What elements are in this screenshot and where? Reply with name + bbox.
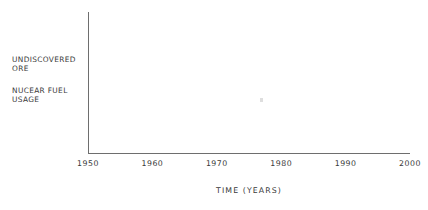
x-axis-tick-label-1980: 1980: [270, 159, 292, 168]
x-axis-tick-label-1970: 1970: [206, 159, 228, 168]
x-axis-tick-label-1950: 1950: [77, 159, 99, 168]
chart-figure: UNDISCOVERED ORE NUCEAR FUEL USAGE 19501…: [0, 0, 428, 210]
x-axis-title: TIME (YEARS): [88, 186, 410, 195]
x-axis-tick-label-1990: 1990: [335, 159, 357, 168]
x-axis-line: [88, 153, 410, 154]
plot-area: [89, 12, 410, 153]
series-label-undiscovered-ore: UNDISCOVERED ORE: [4, 55, 88, 74]
series-label-group: UNDISCOVERED ORE NUCEAR FUEL USAGE: [0, 0, 88, 154]
series-label-nuclear-fuel-usage: NUCEAR FUEL USAGE: [4, 86, 88, 105]
x-axis-tick-label-1960: 1960: [141, 159, 163, 168]
x-axis-tick-label-2000: 2000: [399, 159, 421, 168]
scan-artifact-speck: [260, 98, 263, 102]
